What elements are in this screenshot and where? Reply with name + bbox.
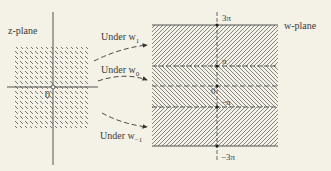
w-plane-title: w-plane — [284, 21, 316, 31]
label-under-w-neg1-text: Under w — [100, 130, 135, 141]
z-origin-circle — [51, 85, 55, 89]
dot-pi — [215, 64, 218, 67]
dot-neg-pi — [215, 105, 218, 108]
diagram-canvas — [0, 0, 331, 171]
label-under-w1-sub: 1 — [136, 37, 140, 45]
label-under-w1-text: Under w — [101, 31, 136, 42]
label-zero: 0 — [211, 86, 216, 96]
dot-3pi — [215, 23, 218, 26]
z-origin-label: 0 — [45, 90, 50, 100]
label-under-w-neg1: Under w−1 — [100, 131, 142, 145]
label-neg-3pi: −3π — [221, 152, 235, 162]
z-plane-title: z-plane — [8, 26, 37, 36]
arrow-w1 — [94, 45, 147, 61]
w-neg1-strip — [152, 107, 278, 146]
label-under-w0-sub: 0 — [136, 70, 140, 78]
label-3pi: 3π — [222, 13, 231, 23]
w1-strip — [152, 25, 278, 66]
label-under-w0-text: Under w — [101, 64, 136, 75]
label-under-w1: Under w1 — [101, 32, 139, 46]
label-neg-pi: −π — [221, 97, 231, 107]
arrow-w-neg1 — [102, 113, 147, 127]
label-under-w0: Under w0 — [101, 65, 139, 79]
dot-neg-3pi — [215, 144, 218, 147]
label-under-w-neg1-sub: −1 — [135, 136, 142, 144]
label-pi: π — [222, 56, 227, 66]
